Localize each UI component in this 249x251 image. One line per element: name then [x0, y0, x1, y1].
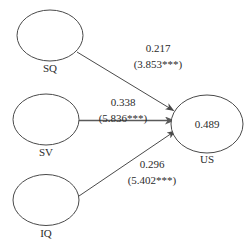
node-sv-label: SV [39, 146, 53, 158]
node-sq [17, 10, 83, 61]
edge-iq-statistic: (5.402***) [128, 174, 177, 187]
node-iq-label: IQ [40, 227, 52, 239]
node-us-label: US [200, 153, 214, 165]
node-us-value: 0.489 [195, 118, 220, 130]
edge-sv-statistic: (5.836***) [99, 112, 148, 125]
edge-iq-coefficient: 0.296 [140, 158, 165, 170]
node-sq-label: SQ [43, 62, 57, 74]
edge-sq-coefficient: 0.217 [146, 42, 171, 54]
edge-sv-coefficient: 0.338 [111, 96, 136, 108]
node-iq [13, 175, 79, 226]
diagram-canvas: SQ SV IQ 0.489 US 0.217 (3.853***) 0.338… [0, 0, 249, 251]
path-diagram: SQ SV IQ 0.489 US 0.217 (3.853***) 0.338… [0, 0, 249, 251]
edge-sq-statistic: (3.853***) [134, 58, 183, 71]
node-sv [13, 94, 79, 145]
